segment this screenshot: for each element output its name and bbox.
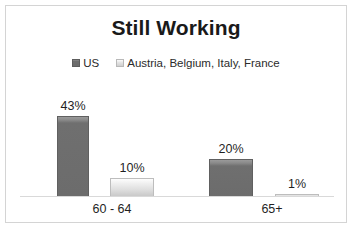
- legend-item-us[interactable]: US: [72, 57, 99, 69]
- bar-label-us-60-64: 43%: [52, 99, 94, 113]
- bar-label-us-65-plus: 20%: [210, 142, 252, 156]
- legend-swatch-dark-icon: [72, 59, 80, 67]
- bar-label-europe-65-plus: 1%: [276, 177, 318, 191]
- chart-legend: US Austria, Belgium, Italy, France: [6, 57, 346, 69]
- bar-us-65-plus[interactable]: [209, 159, 253, 196]
- bar-us-60-64[interactable]: [57, 116, 89, 196]
- legend-label-us: US: [83, 57, 99, 69]
- category-axis-line: [20, 196, 334, 197]
- bar-label-europe-60-64: 10%: [111, 161, 153, 175]
- bar-group-60-64: 43% 10%: [42, 84, 182, 196]
- category-axis-labels: 60 - 64 65+: [20, 202, 334, 220]
- bar-group-65-plus: 20% 1%: [202, 84, 342, 196]
- legend-label-europe: Austria, Belgium, Italy, France: [127, 57, 280, 69]
- plot-area: 43% 10% 20% 1%: [20, 84, 334, 197]
- chart-frame: Still Working US Austria, Belgium, Italy…: [5, 5, 347, 223]
- legend-item-europe[interactable]: Austria, Belgium, Italy, France: [116, 57, 280, 69]
- category-label-60-64: 60 - 64: [42, 202, 182, 216]
- chart-title: Still Working: [6, 16, 346, 40]
- bar-europe-60-64[interactable]: [110, 178, 154, 196]
- category-label-65-plus: 65+: [202, 202, 342, 216]
- legend-swatch-light-icon: [116, 59, 124, 67]
